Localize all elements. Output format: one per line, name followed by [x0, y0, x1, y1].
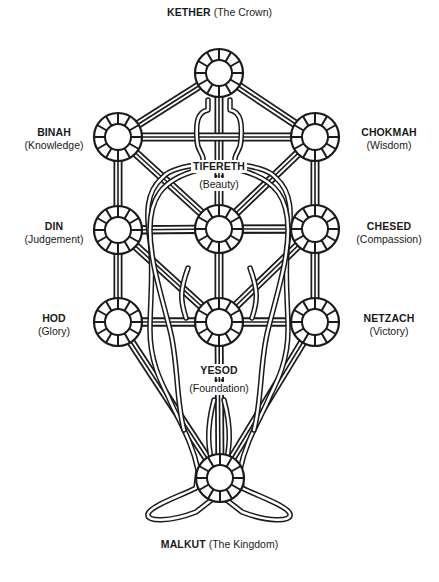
sephira-meaning: (Glory) — [14, 325, 94, 338]
sephira-meaning: (Beauty) — [197, 178, 241, 191]
ring-inner — [206, 216, 232, 242]
sephira-name: CHOKMAH — [344, 126, 434, 139]
label-tifereth: TIFERETH ● ● (Beauty) — [179, 160, 259, 191]
sephira-hod — [94, 298, 142, 346]
label-malkut: MALKUT (The Kingdom) — [0, 538, 439, 551]
sephira-name: KETHER — [167, 6, 211, 18]
sephira-malkut — [196, 454, 244, 502]
sephira-meaning: (Victory) — [344, 325, 434, 338]
sephira-meaning: (Compassion) — [344, 233, 434, 246]
ring-inner — [105, 124, 131, 150]
sephira-name: DIN — [14, 220, 94, 233]
sephira-chokmah — [291, 113, 339, 161]
sephira-din — [94, 206, 142, 254]
sephira-meaning: (The Crown) — [214, 6, 272, 18]
ring-inner — [105, 217, 131, 243]
sephira-netzach — [291, 298, 339, 346]
ring-inner — [302, 216, 328, 242]
sephira-tifereth — [195, 205, 243, 253]
label-chesed: CHESED (Compassion) — [344, 220, 434, 246]
sephira-meaning: (Foundation) — [187, 382, 251, 395]
sephira-name: CHESED — [344, 220, 434, 233]
ring-inner — [206, 60, 232, 86]
label-chokmah: CHOKMAH (Wisdom) — [344, 126, 434, 152]
ring-inner — [207, 465, 233, 491]
sephira-meaning: (Judgement) — [14, 233, 94, 246]
label-binah: BINAH (Knowledge) — [14, 126, 94, 152]
sephira-name: BINAH — [14, 126, 94, 139]
sephira-meaning: (The Kingdom) — [209, 538, 278, 550]
sephira-meaning: (Wisdom) — [344, 139, 434, 152]
ring-inner — [302, 309, 328, 335]
sephira-chesed — [291, 205, 339, 253]
sephira-kether — [195, 49, 243, 97]
label-yesod: YESOD ● ● (Foundation) — [169, 364, 269, 395]
sephira-name: MALKUT — [161, 538, 206, 550]
ring-inner — [302, 124, 328, 150]
label-kether: KETHER (The Crown) — [0, 6, 439, 19]
tree-of-life-diagram: KETHER (The Crown) BINAH (Knowledge) CHO… — [0, 0, 439, 582]
sephira-name: HOD — [14, 312, 94, 325]
label-netzach: NETZACH (Victory) — [344, 312, 434, 338]
sephira-yesod — [195, 298, 243, 346]
label-hod: HOD (Glory) — [14, 312, 94, 338]
sephira-meaning: (Knowledge) — [14, 139, 94, 152]
ring-inner — [206, 309, 232, 335]
ring-inner — [105, 309, 131, 335]
tree-diagram-svg — [0, 0, 439, 582]
sephira-name: NETZACH — [344, 312, 434, 325]
label-din: DIN (Judgement) — [14, 220, 94, 246]
sephira-binah — [94, 113, 142, 161]
